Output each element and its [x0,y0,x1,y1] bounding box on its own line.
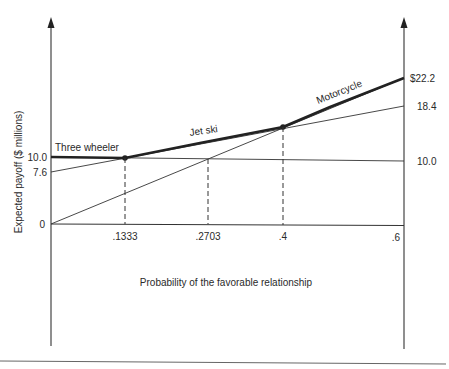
left-axis-arrow-icon [48,17,55,28]
x-axis-title: Probability of the favorable relationshi… [140,277,313,288]
label-motorcycle: Motorcycle [315,77,364,105]
right-label-18-4: 18.4 [417,101,437,112]
x-tick-6: .6 [392,232,401,243]
label-three-wheeler: Three wheeler [55,142,120,153]
label-jet-ski: Jet ski [189,123,219,138]
y-axis-title: Expected payoff ($ millions) [13,111,24,234]
x-axis-baseline [51,224,404,226]
decision-payoff-chart: 10.0 7.6 0 $22.2 18.4 10.0 .1333 .2703 .… [0,0,449,369]
x-tick-2703: .2703 [195,231,220,242]
left-tick-10: 10.0 [28,152,48,163]
left-tick-0: 0 [39,219,45,230]
x-tick-1333: .1333 [112,231,137,242]
bottom-rule [0,361,446,364]
x-tick-4: .4 [279,231,288,242]
right-label-22-2: $22.2 [410,73,435,84]
right-axis-arrow-icon [401,17,408,28]
left-tick-7-6: 7.6 [33,167,47,178]
right-label-10: 10.0 [417,156,437,167]
